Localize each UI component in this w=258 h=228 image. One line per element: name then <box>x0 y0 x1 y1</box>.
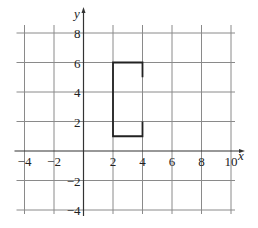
x-tick-label: 10 <box>225 154 238 169</box>
data-series <box>113 63 143 137</box>
y-tick-label: −4 <box>67 203 81 218</box>
x-tick-label: 2 <box>110 154 117 169</box>
axes <box>15 7 246 216</box>
coordinate-grid-chart: −4−22468108642−2−4 x y <box>0 0 258 228</box>
x-axis-label: x <box>237 148 244 163</box>
plot-area: −4−22468108642−2−4 x y <box>0 0 258 228</box>
y-tick-label: 8 <box>74 26 81 41</box>
x-tick-label: −4 <box>18 154 32 169</box>
y-tick-label: −2 <box>67 174 81 189</box>
y-tick-label: 6 <box>74 56 81 71</box>
y-tick-label: 2 <box>74 115 81 130</box>
grid-lines <box>17 25 236 214</box>
y-tick-label: 4 <box>74 85 81 100</box>
x-tick-label: 6 <box>169 154 176 169</box>
open-rectangle-shape <box>113 63 143 137</box>
y-axis-arrow-icon <box>82 7 86 13</box>
x-tick-label: 8 <box>198 154 205 169</box>
y-axis-label: y <box>72 6 80 21</box>
x-tick-label: −2 <box>47 154 61 169</box>
x-tick-label: 4 <box>139 154 146 169</box>
